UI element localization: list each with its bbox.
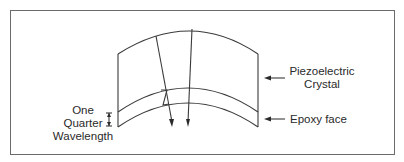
crystal-top-arc [118, 31, 258, 54]
label-line: Quarter [48, 117, 118, 130]
arrowhead-ray-1 [169, 119, 174, 127]
epoxy-face-label: Epoxy face [290, 113, 347, 126]
crystal-bottom-arc [118, 88, 258, 112]
arrowhead-ray-2 [186, 119, 190, 127]
arrowhead-epoxy [264, 117, 271, 122]
arrowhead-piezo [264, 76, 271, 81]
piezoelectric-crystal-label: Piezoelectric Crystal [282, 65, 362, 91]
ray-2 [188, 29, 192, 122]
quarter-wavelength-label: One Quarter Wavelength [48, 104, 118, 143]
label-line: Crystal [282, 78, 362, 91]
ray-1 [156, 36, 172, 122]
label-line: One [48, 104, 118, 117]
label-line: Piezoelectric [282, 65, 362, 78]
label-line: Wavelength [48, 130, 118, 143]
